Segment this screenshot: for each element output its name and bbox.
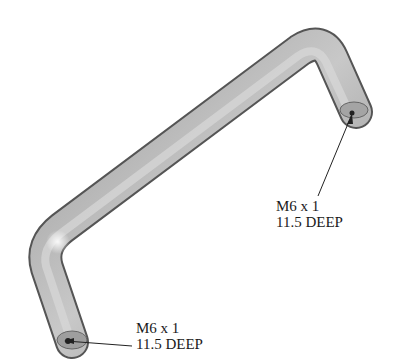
handle-tube bbox=[45, 45, 368, 349]
depth-spec-left: 11.5 DEEP bbox=[136, 336, 203, 352]
thread-spec-left: M6 x 1 bbox=[136, 320, 203, 336]
annotation-right: M6 x 1 11.5 DEEP bbox=[276, 198, 343, 230]
thread-spec-right: M6 x 1 bbox=[276, 198, 343, 214]
depth-spec-right: 11.5 DEEP bbox=[276, 214, 343, 230]
annotation-left: M6 x 1 11.5 DEEP bbox=[136, 320, 203, 352]
handle-drawing bbox=[0, 0, 393, 363]
right-end-cap bbox=[340, 102, 368, 118]
